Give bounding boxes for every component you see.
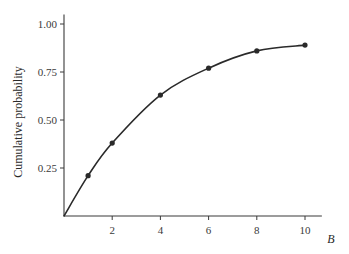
data-markers — [86, 43, 308, 179]
y-axis-label: Cumulative probability — [11, 66, 25, 178]
y-tick-label: 0.75 — [38, 66, 58, 78]
x-axis: 246810 — [64, 216, 322, 236]
x-axis-label: B — [327, 232, 335, 246]
x-tick-label: 6 — [206, 224, 212, 236]
cumulative-curve — [64, 45, 305, 216]
data-point — [86, 173, 91, 178]
x-tick-label: 8 — [254, 224, 260, 236]
data-point — [302, 43, 307, 48]
data-point — [254, 48, 259, 53]
cumulative-probability-chart: 0.250.500.751.00 246810 Cumulative proba… — [0, 0, 349, 254]
y-axis: 0.250.500.751.00 — [38, 14, 64, 216]
x-tick-label: 2 — [109, 224, 115, 236]
x-tick-label: 4 — [158, 224, 164, 236]
data-point — [206, 66, 211, 71]
x-tick-label: 10 — [300, 224, 312, 236]
y-tick-label: 0.25 — [38, 162, 58, 174]
data-point — [110, 140, 115, 145]
y-tick-label: 0.50 — [38, 114, 58, 126]
y-tick-label: 1.00 — [38, 18, 58, 30]
data-point — [158, 92, 163, 97]
